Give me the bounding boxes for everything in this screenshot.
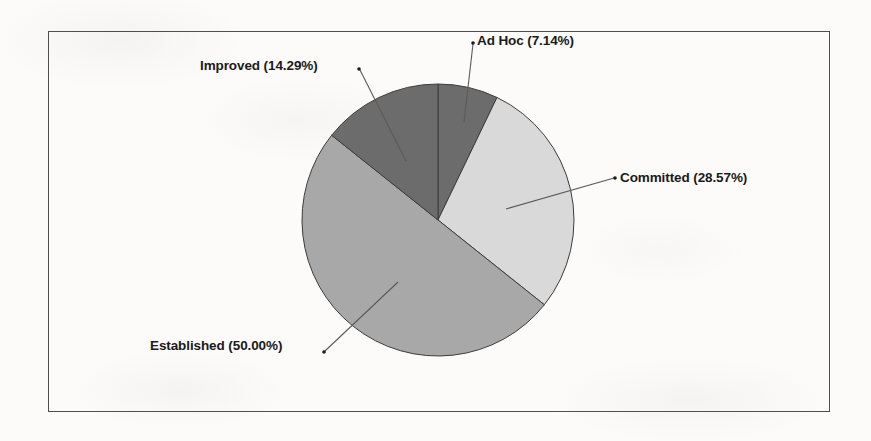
pie-label-ad-hoc: Ad Hoc (7.14%) xyxy=(477,33,574,48)
pie-label-improved: Improved (14.29%) xyxy=(200,58,318,73)
pie-label-established: Established (50.00%) xyxy=(150,338,282,353)
chart-page: Ad Hoc (7.14%) Improved (14.29%) Committ… xyxy=(0,0,871,441)
pie-label-committed: Committed (28.57%) xyxy=(620,170,747,185)
pie-chart-graphic xyxy=(0,0,871,441)
